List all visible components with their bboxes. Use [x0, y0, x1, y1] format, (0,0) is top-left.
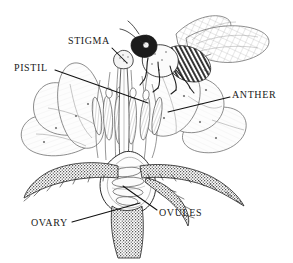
label-ovary: OVARY	[31, 218, 68, 228]
label-ovules: OVULES	[159, 208, 202, 218]
bee-eye	[143, 42, 149, 48]
label-stigma: STIGMA	[68, 36, 110, 46]
label-anther: ANTHER	[232, 90, 276, 100]
stem-group	[111, 206, 143, 258]
label-pistil: PISTIL	[14, 63, 48, 73]
stem	[111, 206, 143, 258]
flower-diagram-figure: STIGMA PISTIL ANTHER OVULES OVARY	[0, 0, 293, 263]
